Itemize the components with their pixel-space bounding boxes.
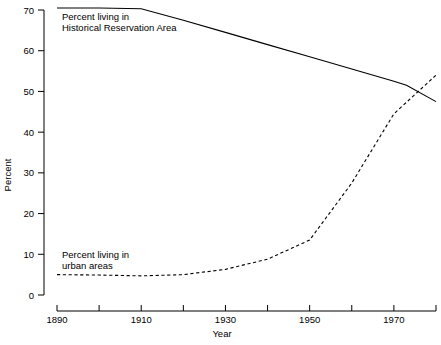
y-tick-label: 60 xyxy=(23,45,34,56)
y-tick-label: 20 xyxy=(23,208,34,219)
x-tick-label: 1970 xyxy=(383,314,404,325)
y-tick-label: 0 xyxy=(29,290,34,301)
y-axis-title: Percent xyxy=(2,158,13,191)
annotation-urban-areas-line2: urban areas xyxy=(62,260,113,271)
chart-container: 010203040506070 18901910193019501970 Per… xyxy=(0,0,441,345)
x-tick-label: 1890 xyxy=(46,314,67,325)
annotation-historical-reservation-line2: Historical Reservation Area xyxy=(62,22,177,33)
annotation-historical-reservation-line1: Percent living in xyxy=(62,11,129,22)
series-line-urban-areas xyxy=(57,75,436,276)
line-chart: 010203040506070 18901910193019501970 Per… xyxy=(0,0,441,345)
x-axis-ticks xyxy=(57,305,436,311)
y-tick-label: 70 xyxy=(23,5,34,16)
y-tick-label: 40 xyxy=(23,127,34,138)
x-axis-tick-labels: 18901910193019501970 xyxy=(46,314,404,325)
x-axis-title: Year xyxy=(212,328,231,339)
y-tick-label: 10 xyxy=(23,249,34,260)
annotation-urban-areas-line1: Percent living in xyxy=(62,249,129,260)
x-tick-label: 1950 xyxy=(299,314,320,325)
y-tick-label: 30 xyxy=(23,167,34,178)
y-axis-tick-labels: 010203040506070 xyxy=(23,5,34,301)
y-axis-ticks xyxy=(38,10,44,295)
x-tick-label: 1910 xyxy=(131,314,152,325)
x-tick-label: 1930 xyxy=(215,314,236,325)
y-tick-label: 50 xyxy=(23,86,34,97)
